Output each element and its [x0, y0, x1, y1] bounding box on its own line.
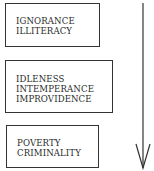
down-arrow-icon [130, 0, 154, 171]
box-line: ILLITERACY [16, 26, 75, 36]
box-idleness-intemperance-improvidence: IDLENESS INTEMPERANCE IMPROVIDENCE [5, 60, 113, 113]
box-line: IMPROVIDENCE [16, 94, 94, 104]
box-line: POVERTY [17, 138, 81, 148]
box-text: IGNORANCE ILLITERACY [16, 16, 75, 36]
box-line: IDLENESS [16, 74, 94, 84]
box-line: IGNORANCE [16, 16, 75, 26]
box-ignorance-illiteracy: IGNORANCE ILLITERACY [5, 3, 100, 47]
box-line: CRIMINALITY [17, 148, 81, 158]
box-line: INTEMPERANCE [16, 84, 94, 94]
box-text: IDLENESS INTEMPERANCE IMPROVIDENCE [16, 74, 94, 104]
box-poverty-criminality: POVERTY CRIMINALITY [6, 125, 99, 168]
box-text: POVERTY CRIMINALITY [17, 138, 81, 158]
